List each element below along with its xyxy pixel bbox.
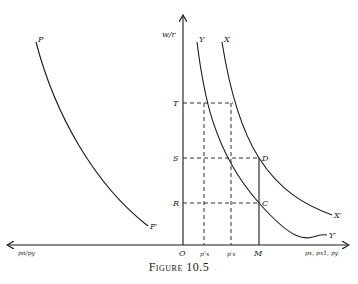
x-axis-left-label: pn/py xyxy=(18,249,36,257)
origin-label: O xyxy=(179,249,186,258)
level-T-label: T xyxy=(173,99,179,108)
figure-caption: Figure 10.5 xyxy=(0,260,358,275)
point-C-label: C xyxy=(262,199,268,208)
curve-X-start-label: X xyxy=(223,35,230,44)
level-R-label: R xyxy=(172,199,179,208)
curve-P-start-label: P xyxy=(37,35,44,44)
point-D-label: D xyxy=(261,154,269,163)
axes xyxy=(8,16,348,245)
guide-lines xyxy=(183,103,259,245)
tick-p2x-label: p″x xyxy=(200,250,210,258)
curve-P xyxy=(36,42,148,226)
curve-X xyxy=(222,42,332,215)
level-S-label: S xyxy=(173,154,179,163)
x-axis-right-label: px, px1, py xyxy=(305,249,339,257)
figure-10-5: w/r Y X P P′ X′ Y′ T S R D C O p″x p′x M… xyxy=(0,0,358,284)
curve-P-end-label: P′ xyxy=(149,222,157,231)
curve-X-end-label: X′ xyxy=(333,211,342,220)
tick-M-label: M xyxy=(253,249,263,258)
curve-Y-end-label: Y′ xyxy=(329,231,336,240)
curve-Y-start-label: Y xyxy=(199,35,205,44)
curve-Y xyxy=(197,42,327,238)
y-axis-label: w/r xyxy=(162,30,177,39)
tick-p1x-label: p′x xyxy=(227,250,236,258)
